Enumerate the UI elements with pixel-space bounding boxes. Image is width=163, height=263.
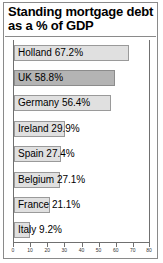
bar-label: Holland 67.2% <box>18 45 83 61</box>
bar-label: Belgium 27.1% <box>18 172 85 188</box>
bar-label: UK 58.8% <box>18 70 63 86</box>
x-tick-label: 80 <box>146 247 152 254</box>
x-tick-label: 40 <box>79 247 85 254</box>
plot-area: Holland 67.2%UK 58.8%Germany 56.4%Irelan… <box>13 40 150 243</box>
page-title: Standing mortgage debt as a % of GDP <box>8 5 154 33</box>
x-tick-label: 10 <box>27 247 33 254</box>
bar-row: Holland 67.2% <box>14 45 149 61</box>
x-axis: 01020304050607080 <box>13 243 150 257</box>
bar-row: Germany 56.4% <box>14 95 149 111</box>
bar-label: Germany 56.4% <box>18 95 90 111</box>
x-tick-label: 30 <box>62 247 68 254</box>
x-tick-label: 0 <box>12 247 15 254</box>
bar-label: France 21.1% <box>18 197 80 213</box>
title-divider <box>5 36 156 37</box>
bar-row: Belgium 27.1% <box>14 172 149 188</box>
x-tick-label: 20 <box>44 247 50 254</box>
chart-figure: Standing mortgage debt as a % of GDP Hol… <box>0 0 163 263</box>
chart-title-block: Standing mortgage debt as a % of GDP <box>8 5 154 33</box>
bar-label: Ireland 29.9% <box>18 121 80 137</box>
bar-row: Ireland 29.9% <box>14 121 149 137</box>
bar-label: Italy 9.2% <box>18 222 62 238</box>
bar-row: Italy 9.2% <box>14 222 149 238</box>
bar-series: Holland 67.2%UK 58.8%Germany 56.4%Irelan… <box>14 40 149 242</box>
x-tick-label: 70 <box>130 247 136 254</box>
bar-row: France 21.1% <box>14 197 149 213</box>
x-tick-label: 60 <box>113 247 119 254</box>
bar-row: UK 58.8% <box>14 70 149 86</box>
bar-label: Spain 27.4% <box>18 146 75 162</box>
bar-row: Spain 27.4% <box>14 146 149 162</box>
x-tick-label: 50 <box>96 247 102 254</box>
